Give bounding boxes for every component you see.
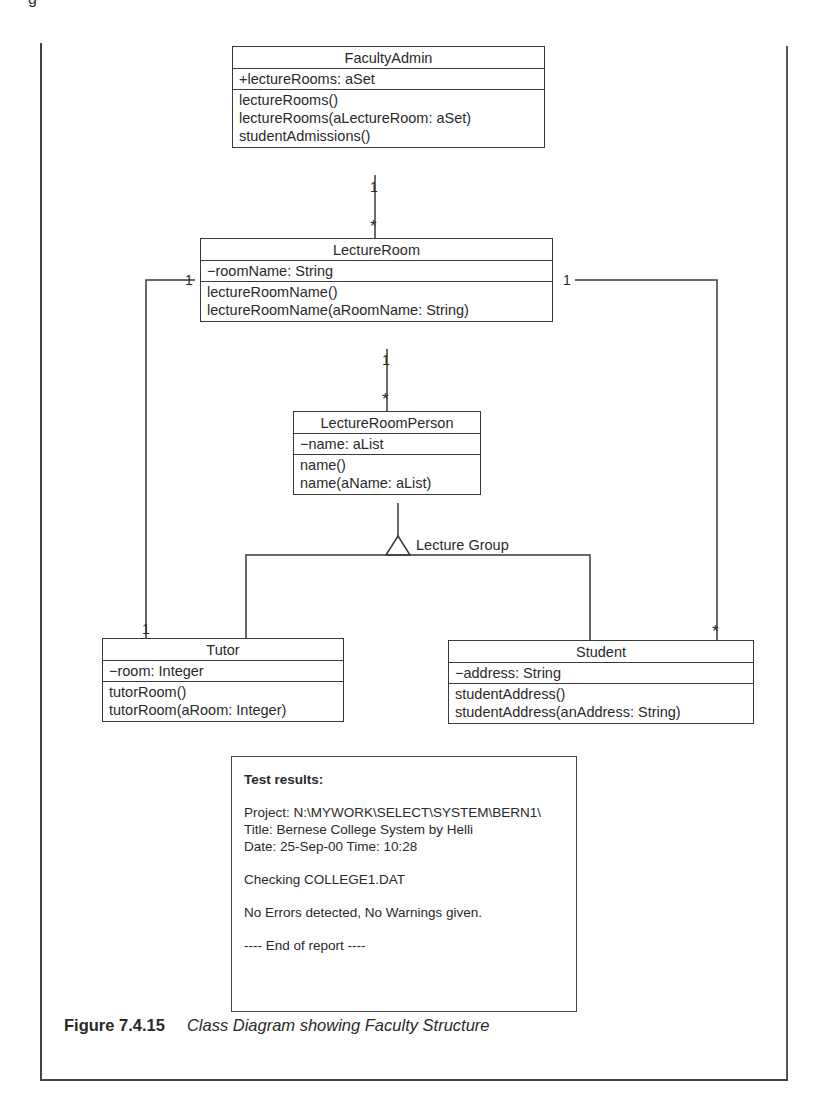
report-project: Project: N:\MYWORK\SELECT\SYSTEM\BERN1\ bbox=[244, 804, 576, 821]
class-lecture-room-person[interactable]: LectureRoomPerson −name: aList name() na… bbox=[293, 411, 481, 495]
figure-caption: Figure 7.4.15Class Diagram showing Facul… bbox=[64, 1016, 490, 1035]
operation: lectureRoomName() bbox=[207, 283, 546, 301]
class-attributes: −name: aList bbox=[294, 434, 480, 455]
multiplicity-room-tutor-from: 1 bbox=[185, 273, 193, 287]
report-checking: Checking COLLEGE1.DAT bbox=[244, 871, 576, 888]
class-operations: lectureRooms() lectureRooms(aLectureRoom… bbox=[233, 90, 544, 147]
class-operations: studentAddress() studentAddress(anAddres… bbox=[449, 684, 753, 723]
attribute: −room: Integer bbox=[109, 662, 337, 680]
class-name: LectureRoom bbox=[201, 239, 552, 261]
class-operations: name() name(aName: aList) bbox=[294, 455, 480, 494]
report-result: No Errors detected, No Warnings given. bbox=[244, 904, 576, 921]
report-title: Title: Bernese College System by Helli bbox=[244, 821, 576, 838]
attribute: −name: aList bbox=[300, 435, 474, 453]
operation: lectureRooms(aLectureRoom: aSet) bbox=[239, 109, 538, 127]
class-operations: tutorRoom() tutorRoom(aRoom: Integer) bbox=[103, 682, 343, 721]
report-end: ---- End of report ---- bbox=[244, 937, 576, 954]
attribute: −roomName: String bbox=[207, 262, 546, 280]
operation: name(aName: aList) bbox=[300, 474, 474, 492]
generalization-triangle bbox=[386, 536, 410, 555]
assoc-room-student bbox=[575, 280, 717, 640]
report-date: Date: 25-Sep-00 Time: 10:28 bbox=[244, 838, 576, 855]
operation: studentAddress(anAddress: String) bbox=[455, 703, 747, 721]
operation: name() bbox=[300, 456, 474, 474]
operation: lectureRoomName(aRoomName: String) bbox=[207, 301, 546, 319]
multiplicity-room-student-to: * bbox=[712, 625, 719, 639]
class-name: Student bbox=[449, 641, 753, 663]
multiplicity-room-student-from: 1 bbox=[563, 273, 571, 287]
generalization-bus bbox=[246, 555, 590, 640]
class-name: FacultyAdmin bbox=[233, 47, 544, 69]
operation: studentAddress() bbox=[455, 685, 747, 703]
class-operations: lectureRoomName() lectureRoomName(aRoomN… bbox=[201, 282, 552, 321]
figure-caption-text: Class Diagram showing Faculty Structure bbox=[187, 1016, 490, 1034]
class-student[interactable]: Student −address: String studentAddress(… bbox=[448, 640, 754, 724]
class-attributes: −room: Integer bbox=[103, 661, 343, 682]
operation: lectureRooms() bbox=[239, 91, 538, 109]
class-name: Tutor bbox=[103, 639, 343, 661]
operation: tutorRoom() bbox=[109, 683, 337, 701]
report-heading: Test results: bbox=[244, 771, 576, 788]
class-attributes: +lectureRooms: aSet bbox=[233, 69, 544, 90]
class-attributes: −roomName: String bbox=[201, 261, 552, 282]
class-name: LectureRoomPerson bbox=[294, 412, 480, 434]
figure-number: Figure 7.4.15 bbox=[64, 1016, 165, 1034]
test-results-report: Test results: Project: N:\MYWORK\SELECT\… bbox=[231, 756, 577, 1012]
operation: tutorRoom(aRoom: Integer) bbox=[109, 701, 337, 719]
class-lecture-room[interactable]: LectureRoom −roomName: String lectureRoo… bbox=[200, 238, 553, 322]
multiplicity-admin-room-from: 1 bbox=[370, 180, 378, 194]
operation: studentAdmissions() bbox=[239, 127, 538, 145]
class-attributes: −address: String bbox=[449, 663, 753, 684]
assoc-room-tutor bbox=[146, 280, 195, 638]
class-tutor[interactable]: Tutor −room: Integer tutorRoom() tutorRo… bbox=[102, 638, 344, 722]
multiplicity-room-person-to: * bbox=[382, 393, 389, 407]
attribute: −address: String bbox=[455, 664, 747, 682]
generalization-label: Lecture Group bbox=[416, 537, 509, 553]
multiplicity-admin-room-to: * bbox=[370, 220, 377, 234]
clipped-text-fragment: g bbox=[28, 0, 37, 8]
multiplicity-room-person-from: 1 bbox=[382, 353, 390, 367]
class-faculty-admin[interactable]: FacultyAdmin +lectureRooms: aSet lecture… bbox=[232, 46, 545, 148]
attribute: +lectureRooms: aSet bbox=[239, 70, 538, 88]
multiplicity-room-tutor-to: 1 bbox=[142, 622, 150, 636]
